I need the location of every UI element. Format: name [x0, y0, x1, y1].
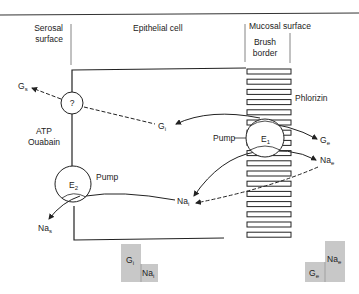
gs-flux-arrow — [32, 88, 61, 99]
microvillus — [247, 100, 291, 105]
microvillus — [247, 202, 291, 207]
microvillus — [247, 79, 291, 84]
nai-to-e2-path — [86, 194, 175, 200]
nas-label: Nas — [38, 223, 52, 234]
e1-to-nai-arrow — [194, 152, 255, 196]
unknown-label: ? — [70, 98, 75, 108]
epithelial-transport-diagram: Serosal surface Epithelial cell Mucosal … — [0, 0, 359, 294]
microvillus — [247, 181, 291, 186]
microvillus — [247, 191, 291, 196]
microvillus — [247, 232, 291, 237]
gs-label: Gs — [18, 81, 28, 92]
nai-label: Nai — [177, 196, 189, 207]
gi-to-carrier-arrow — [84, 107, 155, 124]
ge-label: Ge — [320, 135, 331, 146]
microvillus — [247, 222, 291, 227]
phlorizin-label: Phlorizin — [295, 93, 328, 103]
cell-top-wall — [72, 68, 246, 96]
serosal-label-2: surface — [35, 34, 63, 44]
pump2-label: Pump — [96, 172, 118, 182]
microvillus — [247, 69, 291, 74]
cell-label: Epithelial cell — [133, 23, 183, 33]
top-border — [0, 13, 359, 15]
brush-label-1: Brush — [254, 37, 276, 47]
cell-bottom-wall — [74, 206, 224, 240]
atp-label: ATP — [36, 126, 52, 136]
microvillus — [247, 212, 291, 217]
ouabain-label: Ouabain — [28, 137, 60, 147]
mucosal-label: Mucosal surface — [249, 21, 311, 31]
box-nai-label: Nai — [142, 268, 154, 279]
microvillus — [247, 110, 291, 115]
pump1-label: Pump — [213, 133, 235, 143]
nae-label: Nae — [320, 155, 335, 166]
brush-label-2: border — [253, 48, 278, 58]
microvillus — [247, 171, 291, 176]
microvillus — [247, 161, 291, 166]
microvillus — [247, 89, 291, 94]
gi-label: Gi — [158, 121, 166, 132]
serosal-label-1: Serosal — [34, 23, 63, 33]
